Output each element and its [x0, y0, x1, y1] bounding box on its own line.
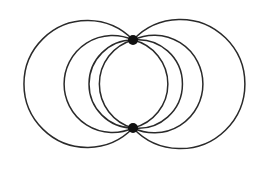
arc-right-7: [133, 19, 245, 148]
bottom-node: [128, 123, 138, 133]
pencil-of-circles-diagram: [0, 0, 269, 169]
arc-left-0: [24, 21, 133, 148]
top-node: [128, 35, 138, 45]
arc-right-5: [133, 40, 182, 129]
arc-right-4: [133, 40, 168, 128]
arc-left-1: [64, 35, 133, 132]
arc-left-3: [99, 40, 133, 128]
nodes-group: [128, 35, 138, 133]
